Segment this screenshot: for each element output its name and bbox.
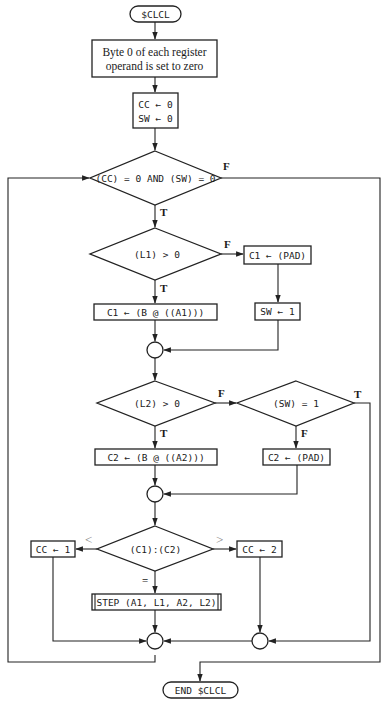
cc1-label: CC ← 1 [36, 544, 71, 555]
join-connector-4 [252, 633, 268, 649]
c2-fetch-box: C2 ← (B @ ((A2))) [95, 449, 217, 465]
init-process-box: Byte 0 of each register operand is set t… [92, 40, 217, 77]
compare-equal-label: = [142, 574, 148, 586]
sw-true-label: T [354, 388, 362, 400]
l1-condition-label: (L1) > 0 [134, 249, 180, 260]
end-terminal: END $CLCL [163, 682, 238, 698]
join-connector-1 [147, 342, 163, 358]
sw-set-label: SW ← 1 [260, 306, 295, 317]
sw-reset-label: SW ← 0 [138, 113, 173, 124]
compare-condition-diamond: (C1):(C2) [97, 526, 213, 571]
l2-true-label: T [160, 427, 168, 439]
start-label: $CLCL [141, 9, 170, 20]
cc-sw-reset-box: CC ← 0 SW ← 0 [133, 93, 178, 128]
cc-reset-label: CC ← 0 [138, 99, 173, 110]
l2-condition-label: (L2) > 0 [134, 398, 180, 409]
step-subroutine-box: STEP (A1, L1, A2, L2) [92, 594, 221, 610]
c2-pad-box: C2 ← (PAD) [263, 449, 330, 465]
step-label: STEP (A1, L1, A2, L2) [96, 597, 216, 608]
init-line2: operand is set to zero [106, 60, 204, 73]
c1-pad-box: C1 ← (PAD) [244, 246, 311, 264]
cc2-box: CC ← 2 [237, 541, 282, 557]
arrow-c2pad-to-join2 [164, 465, 297, 494]
compare-condition-label: (C1):(C2) [130, 544, 181, 555]
l1-true-label: T [160, 282, 168, 294]
l2-false-label: F [218, 387, 225, 399]
join-connector-3 [147, 633, 163, 649]
sw-false-label: F [301, 427, 308, 439]
sw-set-box: SW ← 1 [255, 303, 300, 320]
l1-false-label: F [224, 238, 231, 250]
loop-condition-diamond: (CC) = 0 AND (SW) = 0 [90, 151, 221, 205]
arrow-sw-true-to-join4 [269, 403, 370, 641]
loop-true-label: T [160, 206, 168, 218]
sw-condition-diamond: (SW) = 1 [237, 381, 354, 426]
sw-condition-label: (SW) = 1 [273, 398, 319, 409]
loop-false-label: F [223, 160, 230, 172]
start-terminal: $CLCL [130, 6, 181, 22]
loop-condition-label: (CC) = 0 AND (SW) = 0 [95, 173, 215, 184]
cc1-box: CC ← 1 [31, 541, 75, 557]
cc2-label: CC ← 2 [242, 544, 276, 555]
compare-greater-label: > [216, 532, 223, 547]
l1-condition-diamond: (L1) > 0 [90, 228, 221, 280]
flowchart-diagram: $CLCL Byte 0 of each register operand is… [0, 0, 390, 707]
c1-fetch-label: C1 ← (B @ ((A1))) [107, 307, 204, 318]
compare-less-label: < [85, 532, 92, 547]
c2-pad-label: C2 ← (PAD) [268, 452, 325, 463]
init-line1: Byte 0 of each register [102, 46, 206, 59]
c1-pad-label: C1 ← (PAD) [249, 250, 306, 261]
arrow-sw-to-join1 [164, 320, 278, 350]
c1-fetch-box: C1 ← (B @ ((A1))) [94, 304, 217, 320]
l2-condition-diamond: (L2) > 0 [97, 381, 215, 426]
join-connector-2 [147, 486, 163, 502]
c2-fetch-label: C2 ← (B @ ((A2))) [107, 452, 204, 463]
end-label: END $CLCL [175, 685, 227, 696]
